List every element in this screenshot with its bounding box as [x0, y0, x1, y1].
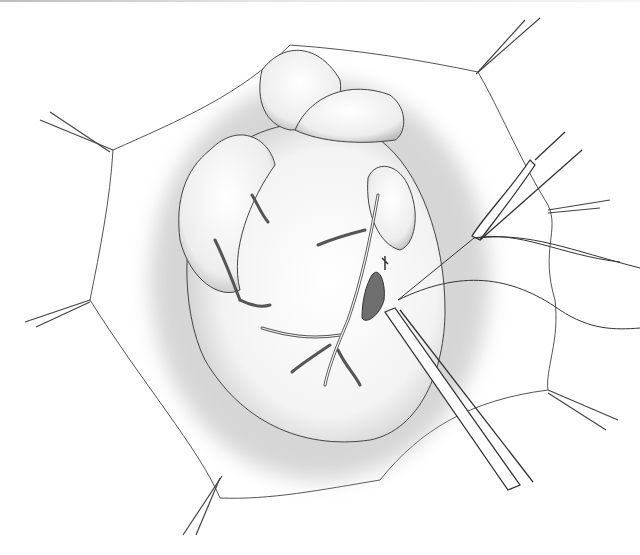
surgical-illustration [0, 0, 640, 555]
